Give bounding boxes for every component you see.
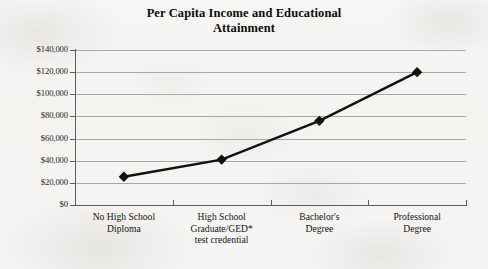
data-point-marker — [216, 154, 226, 164]
data-point-marker — [314, 116, 324, 126]
line-chart: Per Capita Income and Educational Attain… — [0, 0, 488, 269]
data-point-marker — [412, 67, 422, 77]
data-series-layer — [0, 0, 488, 269]
series-markers — [119, 67, 423, 182]
data-point-marker — [119, 172, 129, 182]
series-line — [124, 72, 417, 177]
